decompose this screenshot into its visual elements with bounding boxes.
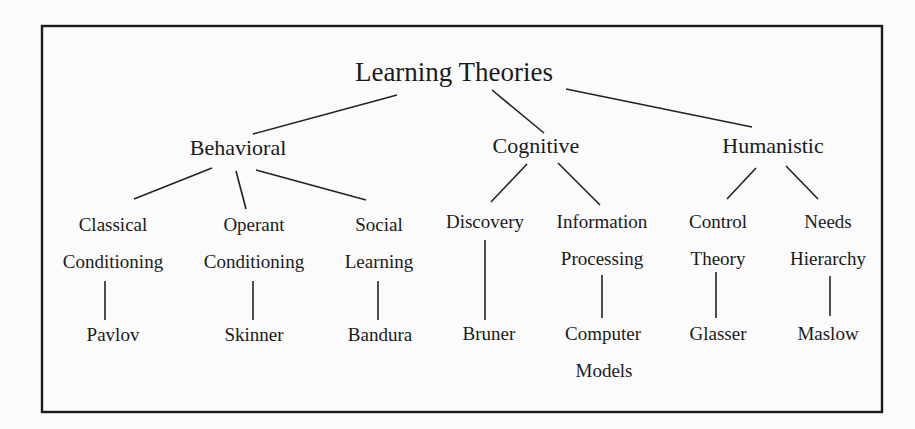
node-information-line2: Processing [561, 248, 644, 269]
leaf-skinner: Skinner [224, 324, 284, 345]
edge-root-behavioral [253, 95, 397, 134]
edge-root-humanistic [566, 89, 752, 127]
leaf-glasser: Glasser [690, 323, 748, 344]
learning-theories-diagram: Learning Theories Behavioral Cognitive H… [0, 0, 915, 429]
node-needs-line2: Hierarchy [790, 248, 866, 269]
node-classical-line1: Classical [79, 214, 148, 235]
edge-root-cognitive [492, 90, 544, 133]
node-information-line1: Information [557, 211, 648, 232]
leaf-bruner: Bruner [463, 323, 516, 344]
node-control-line1: Control [689, 211, 747, 232]
node-discovery: Discovery [446, 211, 525, 232]
node-needs-line1: Needs [804, 211, 851, 232]
edge-cognitive-discovery [491, 164, 527, 202]
leaf-computer-line2: Models [576, 360, 633, 381]
edge-cognitive-information [558, 163, 600, 205]
node-humanistic: Humanistic [722, 133, 824, 158]
edge-humanistic-needs [786, 166, 818, 199]
node-cognitive: Cognitive [493, 133, 580, 158]
node-social-line1: Social [355, 214, 403, 235]
node-operant-line1: Operant [223, 214, 285, 235]
node-social-line2: Learning [345, 251, 414, 272]
node-operant-line2: Conditioning [204, 251, 305, 272]
node-classical-line2: Conditioning [63, 251, 164, 272]
edge-behavioral-social [256, 170, 366, 200]
leaf-computer-line1: Computer [565, 323, 642, 344]
node-control-line2: Theory [691, 248, 746, 269]
edge-behavioral-operant [236, 171, 246, 209]
leaf-bandura: Bandura [348, 324, 413, 345]
node-behavioral: Behavioral [190, 135, 287, 160]
edge-behavioral-classical [134, 168, 212, 199]
edge-humanistic-control [727, 168, 756, 199]
leaf-maslow: Maslow [797, 323, 859, 344]
root-node: Learning Theories [355, 57, 553, 87]
leaf-pavlov: Pavlov [87, 324, 140, 345]
